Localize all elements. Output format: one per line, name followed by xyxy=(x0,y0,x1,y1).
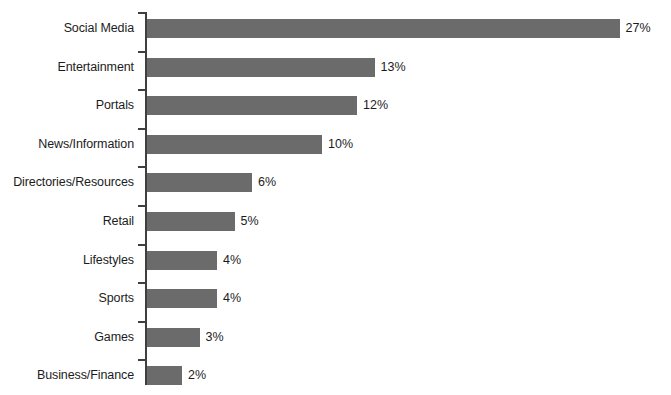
bar-value-label: 27% xyxy=(620,19,651,38)
bar-track xyxy=(147,173,252,192)
bar xyxy=(147,328,200,347)
bar-track xyxy=(147,366,182,385)
axis-tick xyxy=(138,12,146,14)
category-label: Directories/Resources xyxy=(0,173,134,192)
bar-value-label: 12% xyxy=(357,96,388,115)
axis-tick xyxy=(138,359,146,361)
axis-tick xyxy=(138,205,146,207)
bar-row: Portals12% xyxy=(0,96,671,115)
bar-track xyxy=(147,58,375,77)
bar-track xyxy=(147,251,217,270)
category-label: News/Information xyxy=(0,135,134,154)
category-label: Portals xyxy=(0,96,134,115)
bar-value-label: 3% xyxy=(200,328,224,347)
bar-track xyxy=(147,289,217,308)
axis-tick xyxy=(138,282,146,284)
bar-value-label: 2% xyxy=(182,366,206,385)
bar-row: Business/Finance2% xyxy=(0,366,671,385)
bar-row: News/Information10% xyxy=(0,135,671,154)
bar xyxy=(147,96,357,115)
axis-tick xyxy=(138,51,146,53)
axis-tick xyxy=(138,321,146,323)
category-label: Business/Finance xyxy=(0,366,134,385)
bar-track xyxy=(147,328,200,347)
bar xyxy=(147,289,217,308)
bar-value-label: 6% xyxy=(252,173,276,192)
axis-tick xyxy=(138,244,146,246)
bar-value-label: 10% xyxy=(322,135,353,154)
category-label: Social Media xyxy=(0,19,134,38)
bar-row: Lifestyles4% xyxy=(0,251,671,270)
category-label: Sports xyxy=(0,289,134,308)
bar xyxy=(147,366,182,385)
bar-row: Retail5% xyxy=(0,212,671,231)
bar xyxy=(147,19,620,38)
category-label: Entertainment xyxy=(0,58,134,77)
bar-row: Sports4% xyxy=(0,289,671,308)
bar-value-label: 4% xyxy=(217,289,241,308)
bar xyxy=(147,173,252,192)
bar-row: Directories/Resources6% xyxy=(0,173,671,192)
axis-tick xyxy=(138,89,146,91)
category-label: Lifestyles xyxy=(0,251,134,270)
bar-track xyxy=(147,96,357,115)
bar-track xyxy=(147,212,235,231)
bar xyxy=(147,212,235,231)
bar-row: Entertainment13% xyxy=(0,58,671,77)
category-label: Retail xyxy=(0,212,134,231)
bar xyxy=(147,251,217,270)
axis-tick xyxy=(138,128,146,130)
bar xyxy=(147,58,375,77)
bar-track xyxy=(147,19,620,38)
horizontal-bar-chart: Social Media27%Entertainment13%Portals12… xyxy=(0,0,671,395)
bar-value-label: 13% xyxy=(375,58,406,77)
bar-track xyxy=(147,135,322,154)
bar-value-label: 5% xyxy=(235,212,259,231)
category-label: Games xyxy=(0,328,134,347)
bar xyxy=(147,135,322,154)
bar-value-label: 4% xyxy=(217,251,241,270)
axis-tick xyxy=(138,166,146,168)
bar-row: Social Media27% xyxy=(0,19,671,38)
bar-row: Games3% xyxy=(0,328,671,347)
